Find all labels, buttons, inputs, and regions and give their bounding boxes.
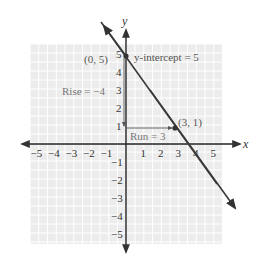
y-tick-label: −3 xyxy=(111,192,123,204)
x-tick-label: 1 xyxy=(141,147,147,159)
point-label-3-1: (3, 1) xyxy=(178,116,202,129)
point-label-0-5: (0, 5) xyxy=(84,53,108,66)
rise-annotation: Rise = −4 xyxy=(62,85,105,97)
x-tick-label: −5 xyxy=(31,147,43,159)
y-intercept-annotation: y-intercept = 5 xyxy=(134,51,199,63)
point-0-5 xyxy=(123,53,128,58)
y-tick-label: −2 xyxy=(111,174,123,186)
y-tick-label: 2 xyxy=(116,102,122,114)
x-axis-label: x xyxy=(242,137,249,151)
run-annotation: Run = 3 xyxy=(130,130,166,142)
x-tick-label: −3 xyxy=(66,147,78,159)
y-tick-label: −1 xyxy=(111,156,123,168)
x-tick-label: 2 xyxy=(158,147,164,159)
y-tick-label: −5 xyxy=(111,228,123,240)
y-tick-label: −4 xyxy=(111,210,123,222)
y-axis-label: y xyxy=(121,14,128,28)
x-tick-label: −4 xyxy=(48,147,60,159)
slope-graph: x y −5−4−3−2−112345 54321−1−2−3−4−5 (0, … xyxy=(0,0,260,263)
x-tick-label: 3 xyxy=(176,147,182,159)
x-tick-label: −2 xyxy=(83,147,95,159)
y-tick-label: 4 xyxy=(116,66,122,78)
point-3-1 xyxy=(172,125,177,130)
x-tick-label: 5 xyxy=(211,147,217,159)
y-tick-label: 1 xyxy=(116,120,122,132)
y-tick-label: 3 xyxy=(116,84,122,96)
